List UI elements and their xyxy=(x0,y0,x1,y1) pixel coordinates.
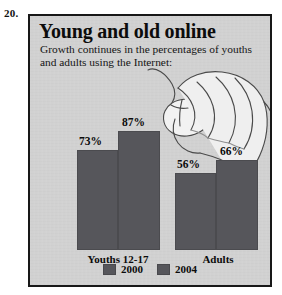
panel-content: Young and old online Growth continues in… xyxy=(30,16,270,285)
page-title: Young and old online xyxy=(39,20,216,42)
bar-value-adults-2000: 56% xyxy=(177,158,200,170)
legend-swatch-2000-icon xyxy=(103,264,116,275)
exercise-number: 20. xyxy=(4,7,18,19)
legend-swatch-2004-icon xyxy=(157,264,170,275)
chart-subtitle: Growth continues in the percentages of y… xyxy=(40,43,255,70)
legend-entry-2000: 2000 xyxy=(103,264,143,275)
bar-adults-2004 xyxy=(216,160,258,250)
chart-legend: 2000 2004 xyxy=(30,264,270,275)
bar-value-youths-2004: 87% xyxy=(122,116,145,128)
bar-youths-2004 xyxy=(118,131,160,250)
legend-entry-2004: 2004 xyxy=(157,264,197,275)
bar-youths-2000 xyxy=(77,150,118,250)
bar-adults-2000 xyxy=(175,173,216,250)
bar-value-youths-2000: 73% xyxy=(79,135,102,147)
legend-label-2004: 2004 xyxy=(175,264,197,275)
figure-root: 20. Young and old online Growth continue… xyxy=(0,0,282,295)
legend-label-2000: 2000 xyxy=(121,264,143,275)
infographic-panel: Young and old online Growth continues in… xyxy=(28,14,272,287)
bar-value-adults-2004: 66% xyxy=(220,145,243,157)
